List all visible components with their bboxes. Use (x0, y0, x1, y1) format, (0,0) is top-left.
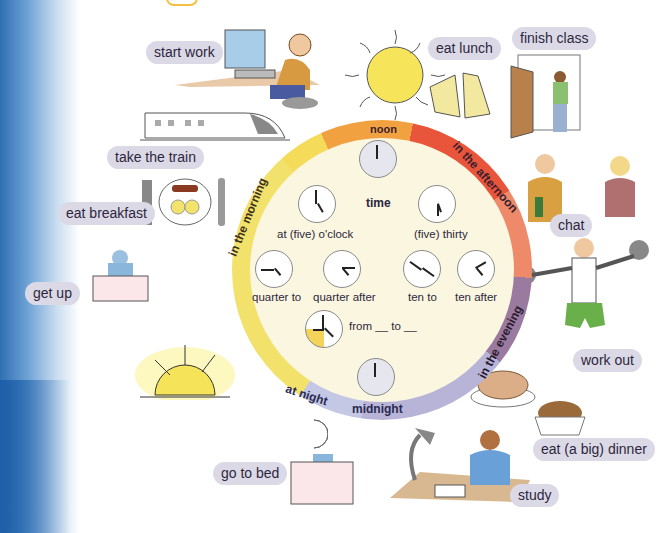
clock-label-quarter-to: quarter to (252, 291, 301, 303)
segment-label-noon: noon (370, 123, 397, 135)
train-illustration (140, 108, 290, 143)
clock-label-ten-to: ten to (408, 291, 437, 303)
clock-midnight (357, 358, 395, 396)
clock-quarter-to (255, 250, 293, 288)
clock-noon (359, 140, 397, 178)
clock-five-oclock (298, 185, 336, 223)
clock-label-five-oclock: at (five) o'clock (277, 228, 353, 240)
activity-eat-big-dinner: eat (a big) dinner (533, 438, 655, 461)
activity-study: study (510, 484, 559, 507)
activity-go-to-bed: go to bed (213, 462, 287, 485)
get-up-illustration (88, 248, 153, 303)
clock-five-thirty (418, 185, 456, 223)
clock-from-to (305, 310, 343, 348)
activity-work-out: work out (573, 349, 642, 372)
workout-illustration (512, 238, 657, 348)
sunrise-illustration (130, 340, 240, 400)
clock-label-quarter-after: quarter after (313, 291, 376, 303)
finish-class-illustration (508, 52, 583, 144)
activity-get-up: get up (25, 282, 80, 305)
study-illustration (380, 410, 530, 505)
activity-start-work: start work (146, 41, 223, 64)
clock-ten-to (403, 250, 441, 288)
segment-label-midnight: midnight (352, 402, 403, 416)
top-tab-marker (166, 0, 198, 6)
bed-illustration (288, 452, 358, 507)
activity-eat-lunch: eat lunch (428, 37, 501, 60)
clock-label-five-thirty: (five) thirty (414, 228, 468, 240)
breakfast-illustration (140, 175, 230, 230)
moon-illustration (302, 418, 328, 450)
clock-quarter-after (323, 250, 361, 288)
center-title: time (366, 196, 391, 210)
clock-label-ten-after: ten after (455, 291, 497, 303)
sandwich-illustration (425, 65, 495, 120)
activity-eat-breakfast: eat breakfast (58, 202, 155, 225)
dinner-bowl-illustration (530, 395, 590, 440)
activity-take-the-train: take the train (107, 146, 204, 169)
blue-page-edge-lower (0, 380, 70, 533)
activity-finish-class: finish class (512, 27, 596, 50)
clock-label-from-to: from __ to __ (349, 320, 417, 332)
computer-worker-illustration (170, 25, 330, 120)
activity-chat: chat (550, 214, 592, 237)
clock-ten-after (457, 250, 495, 288)
